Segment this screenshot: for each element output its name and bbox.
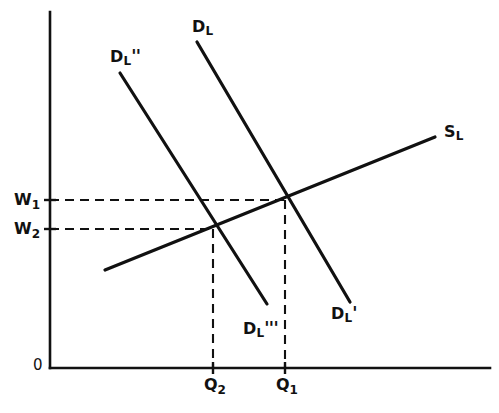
curve-label-sl: SL bbox=[444, 123, 463, 142]
x-axis-label-q1: Q1 bbox=[276, 377, 298, 396]
curve-label-dl: DL bbox=[192, 18, 213, 37]
demand-curve-dl-double-prime bbox=[120, 73, 267, 304]
y-axis-label-w1: W1 bbox=[14, 192, 40, 211]
y-axis-label-w2: W2 bbox=[14, 221, 40, 240]
curve-label-dl-double-prime: DL'' bbox=[110, 48, 141, 67]
curve-label-dl-triple-prime: DL''' bbox=[243, 320, 278, 339]
diagram-canvas bbox=[0, 0, 499, 413]
origin-label: 0 bbox=[33, 358, 43, 373]
supply-curve-sl bbox=[105, 137, 435, 270]
labor-market-diagram: W1 W2 Q2 Q1 0 DL DL'' DL''' DL' SL bbox=[0, 0, 499, 413]
demand-curve-dl bbox=[197, 42, 350, 302]
curve-label-dl-prime: DL' bbox=[331, 305, 357, 324]
x-axis-label-q2: Q2 bbox=[204, 377, 226, 396]
